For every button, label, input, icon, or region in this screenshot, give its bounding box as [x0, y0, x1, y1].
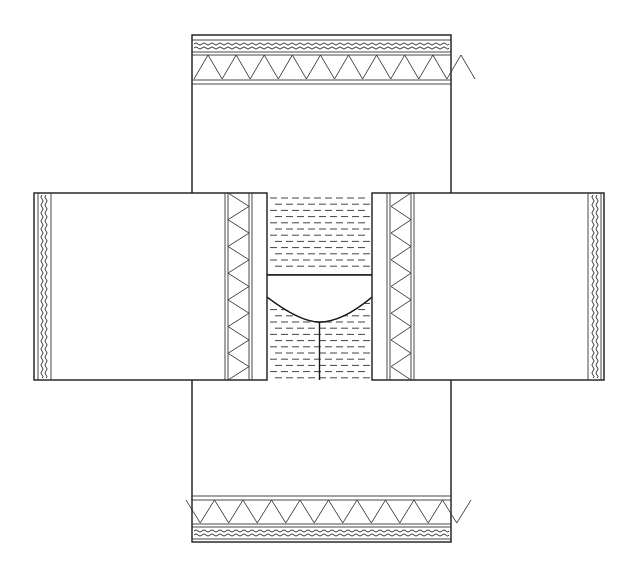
- right-panel: [372, 193, 604, 380]
- garment-diagram: [0, 0, 633, 580]
- diagram-stage: Garment layout pattern: [0, 0, 633, 580]
- center-hatched-section: [267, 193, 372, 380]
- right-panel-outline: [372, 193, 604, 380]
- left-panel: [34, 193, 267, 380]
- left-panel-outline: [34, 193, 267, 380]
